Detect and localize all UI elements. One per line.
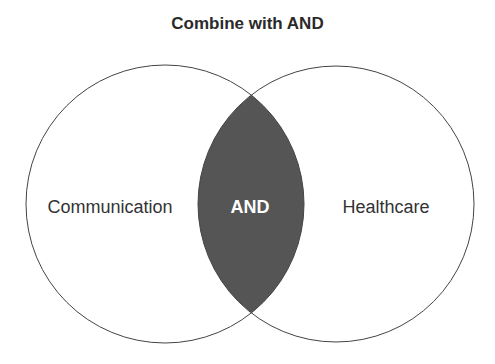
venn-diagram: Communication AND Healthcare bbox=[0, 0, 495, 364]
label-communication: Communication bbox=[47, 197, 172, 217]
label-and: AND bbox=[231, 197, 270, 217]
label-healthcare: Healthcare bbox=[342, 197, 429, 217]
